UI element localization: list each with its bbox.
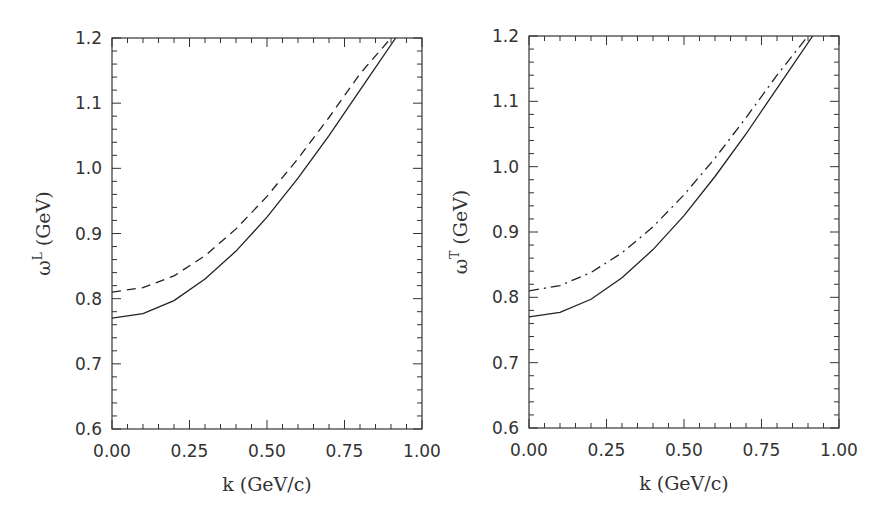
left-chart: 0.000.250.500.751.000.60.70.80.91.01.11.… (0, 0, 441, 525)
x-axis-label: k (GeV/c) (222, 473, 312, 495)
y-tick-label: 1.1 (75, 93, 102, 113)
y-tick-label: 0.9 (492, 222, 519, 242)
x-tick-label: 0.75 (326, 441, 364, 461)
left-chart-panel: 0.000.250.500.751.000.60.70.80.91.01.11.… (0, 0, 441, 525)
y-tick-label: 0.8 (492, 287, 519, 307)
curve-solid (112, 38, 396, 318)
y-tick-label: 0.8 (75, 289, 102, 309)
y-axis-label: ωT (GeV) (448, 190, 471, 275)
x-tick-label: 0.25 (171, 441, 209, 461)
x-tick-label: 0.50 (248, 441, 286, 461)
x-tick-label: 0.75 (743, 440, 781, 460)
plot-frame (529, 36, 839, 428)
y-tick-label: 1.2 (75, 28, 102, 48)
x-tick-label: 0.25 (588, 440, 626, 460)
curve-dash-dot (529, 36, 808, 291)
x-tick-label: 0.00 (510, 440, 548, 460)
y-tick-label: 0.7 (75, 354, 102, 374)
right-chart: 0.000.250.500.751.000.60.70.80.91.01.11.… (441, 0, 883, 525)
y-tick-label: 1.0 (75, 158, 102, 178)
x-tick-label: 0.00 (93, 441, 131, 461)
x-tick-label: 0.50 (665, 440, 703, 460)
curve-dashed (112, 38, 391, 292)
y-tick-label: 0.6 (75, 419, 102, 439)
y-tick-label: 1.1 (492, 91, 519, 111)
x-tick-label: 1.00 (820, 440, 858, 460)
y-tick-label: 0.7 (492, 353, 519, 373)
y-tick-label: 0.9 (75, 224, 102, 244)
x-tick-label: 1.00 (403, 441, 441, 461)
y-axis-label: ωL (GeV) (31, 191, 54, 275)
y-tick-label: 1.2 (492, 26, 519, 46)
curve-solid (529, 36, 813, 317)
plot-frame (112, 38, 422, 429)
right-chart-panel: 0.000.250.500.751.000.60.70.80.91.01.11.… (441, 0, 883, 525)
x-axis-label: k (GeV/c) (639, 472, 729, 494)
y-tick-label: 1.0 (492, 157, 519, 177)
y-tick-label: 0.6 (492, 418, 519, 438)
